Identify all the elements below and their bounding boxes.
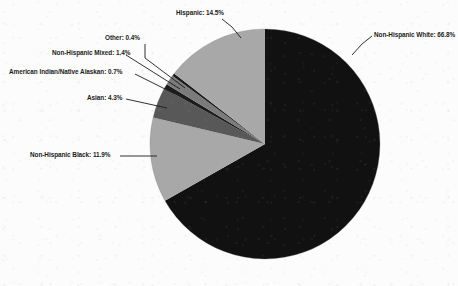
slice-label-non-hispanic-white: Non-Hispanic White: 66.8% <box>374 32 455 38</box>
slice-label-non-hispanic-black: Non-Hispanic Black: 11.9% <box>30 152 110 158</box>
pie-chart-canvas <box>0 0 458 286</box>
slice-label-asian: Asian: 4.3% <box>87 95 122 101</box>
pie-chart-figure: Hispanic: 14.5% Other: 0.4% Non-Hispanic… <box>0 0 458 286</box>
slice-label-hispanic: Hispanic: 14.5% <box>176 10 224 16</box>
slice-label-other: Other: 0.4% <box>105 35 140 41</box>
leader-line-non-hispanic-mixed <box>126 55 180 89</box>
slice-label-american-indian-native-alaskan: American Indian/Native Alaskan: 0.7% <box>9 69 122 75</box>
slice-label-non-hispanic-mixed: Non-Hispanic Mixed: 1.4% <box>52 50 130 56</box>
leader-line-non-hispanic-white <box>352 36 372 55</box>
